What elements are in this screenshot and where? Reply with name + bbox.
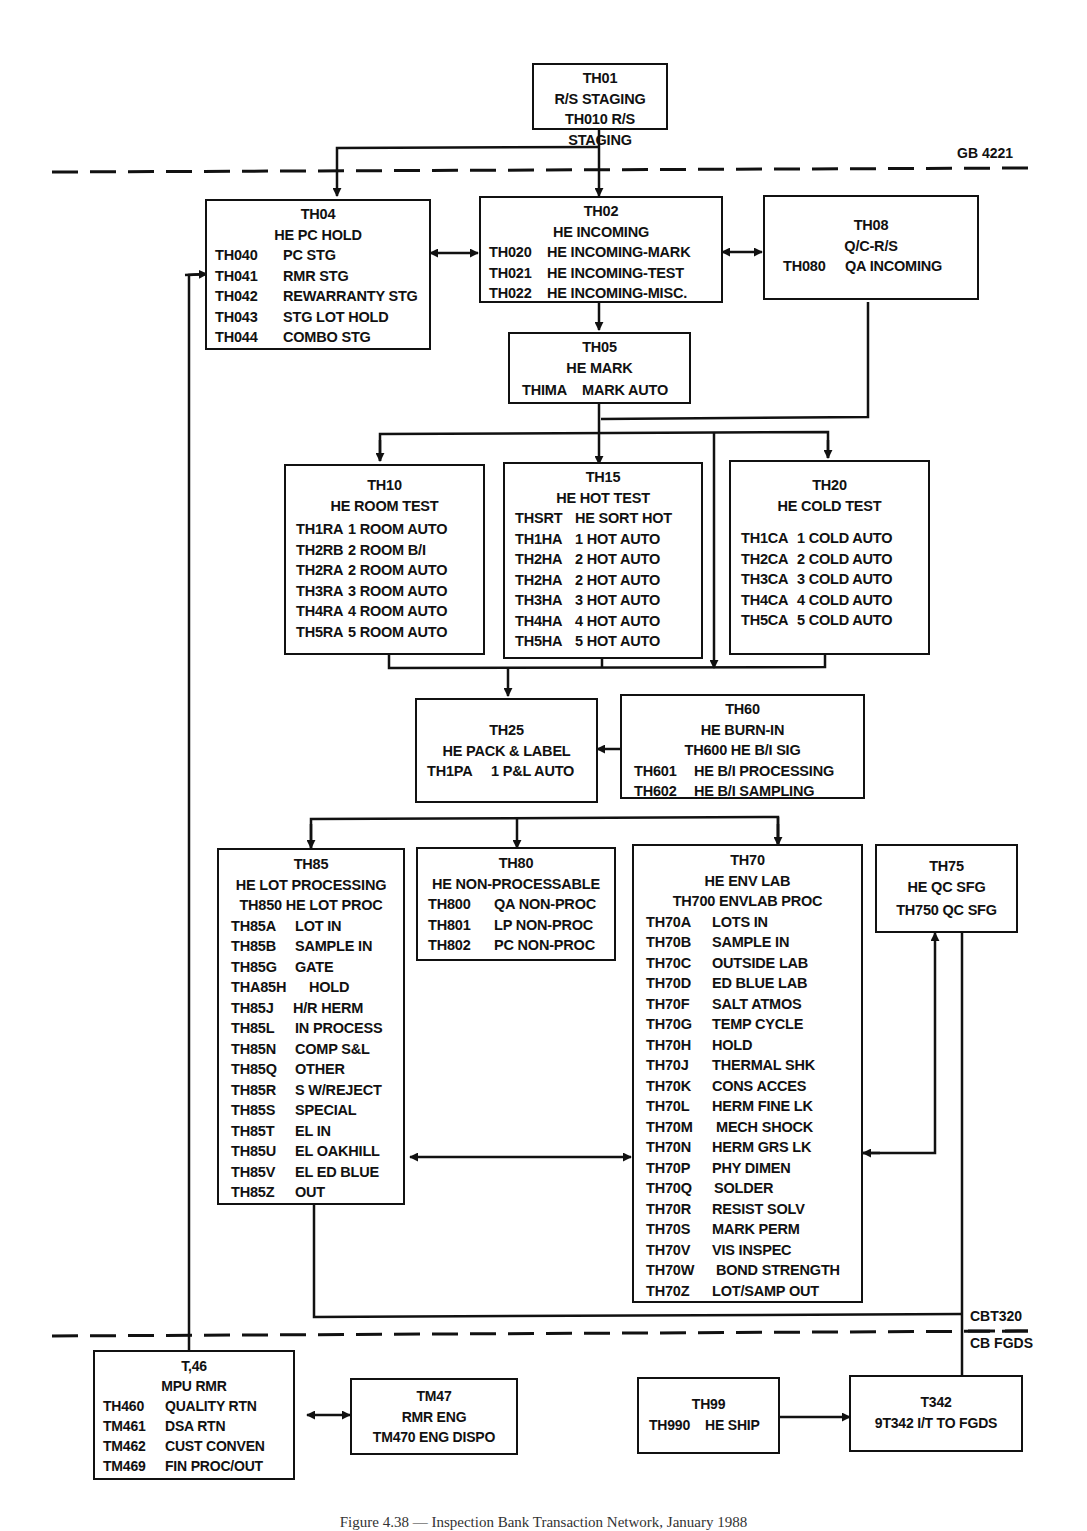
node-id: TH99 bbox=[639, 1394, 778, 1415]
list-item: TH70JTHERMAL SHK bbox=[646, 1055, 861, 1076]
list-item: TM462CUST CONVEN bbox=[103, 1436, 293, 1456]
list-item: TH70QSOLDER bbox=[646, 1178, 861, 1199]
list-item: TH020HE INCOMING-MARK bbox=[489, 242, 721, 263]
list-item: TH70GTEMP CYCLE bbox=[646, 1014, 861, 1035]
list-item: TH800QA NON-PROC bbox=[428, 894, 614, 915]
node-id: TH15 bbox=[505, 467, 701, 488]
list-item: TH70COUTSIDE LAB bbox=[646, 953, 861, 974]
node-th99: TH99 TH990HE SHIP bbox=[637, 1377, 780, 1454]
node-id: TH01 bbox=[534, 68, 666, 89]
list-item: TH85ZOUT bbox=[231, 1182, 403, 1203]
node-title: HE PC HOLD bbox=[207, 225, 429, 246]
list-item: TH2RA2 ROOM AUTO bbox=[296, 560, 483, 581]
node-th85: TH85 HE LOT PROCESSING TH850 HE LOT PROC… bbox=[217, 848, 405, 1205]
list-item: TH4RA4 ROOM AUTO bbox=[296, 601, 483, 622]
list-item: TM469FIN PROC/OUT bbox=[103, 1456, 293, 1476]
node-sub: TH600 HE B/I SIG bbox=[622, 740, 863, 761]
list-item: THSRTHE SORT HOT bbox=[515, 508, 701, 529]
list-item: TH85BSAMPLE IN bbox=[231, 936, 403, 957]
list-item: TH70KCONS ACCES bbox=[646, 1076, 861, 1097]
figure-caption: Figure 4.38 — Inspection Bank Transactio… bbox=[0, 1514, 1087, 1531]
list-item: TH4HA4 HOT AUTO bbox=[515, 611, 701, 632]
node-id: TH75 bbox=[877, 856, 1016, 877]
list-item: TM461DSA RTN bbox=[103, 1416, 293, 1436]
node-title: HE PACK & LABEL bbox=[417, 741, 596, 762]
node-id: TH60 bbox=[622, 699, 863, 720]
node-id: TH80 bbox=[418, 853, 614, 874]
list-item: TH70HHOLD bbox=[646, 1035, 861, 1056]
list-item: TH2HA2 HOT AUTO bbox=[515, 549, 701, 570]
node-th80: TH80 HE NON-PROCESSABLE TH800QA NON-PROC… bbox=[416, 847, 616, 961]
node-id: T342 bbox=[851, 1392, 1021, 1413]
node-title: HE INCOMING bbox=[481, 222, 721, 243]
list-item: TH70DED BLUE LAB bbox=[646, 973, 861, 994]
node-id: T,46 bbox=[95, 1356, 293, 1376]
list-item: TH043STG LOT HOLD bbox=[215, 307, 429, 328]
list-item: TH70VVIS INSPEC bbox=[646, 1240, 861, 1261]
node-sub: TH850 HE LOT PROC bbox=[219, 895, 403, 916]
node-id: TH85 bbox=[219, 854, 403, 875]
node-title: HE BURN-IN bbox=[622, 720, 863, 741]
list-item: TH602HE B/I SAMPLING bbox=[634, 781, 863, 802]
boundary-label-cbt320: CBT320 bbox=[970, 1308, 1022, 1324]
list-item: TH041RMR STG bbox=[215, 266, 429, 287]
list-item: TH85LIN PROCESS bbox=[231, 1018, 403, 1039]
node-id: TH70 bbox=[634, 850, 861, 871]
list-item: TH1CA1 COLD AUTO bbox=[741, 528, 928, 549]
node-id: TH02 bbox=[481, 201, 721, 222]
list-item: TH85RS W/REJECT bbox=[231, 1080, 403, 1101]
list-item: THA85HHOLD bbox=[231, 977, 403, 998]
node-title: HE MARK bbox=[510, 358, 689, 379]
list-item: TH70ALOTS IN bbox=[646, 912, 861, 933]
list-item: TH460QUALITY RTN bbox=[103, 1396, 293, 1416]
boundary-label-gb4221: GB 4221 bbox=[957, 145, 1013, 161]
node-id: TH25 bbox=[417, 720, 596, 741]
list-item: TH85ALOT IN bbox=[231, 916, 403, 937]
node-th70: TH70 HE ENV LAB TH700 ENVLAB PROC TH70AL… bbox=[632, 844, 863, 1303]
node-id: TH05 bbox=[510, 337, 689, 358]
list-item: TH2RB2 ROOM B/I bbox=[296, 540, 483, 561]
node-th20: TH20 HE COLD TEST TH1CA1 COLD AUTO TH2CA… bbox=[729, 460, 930, 655]
list-item: TH85SSPECIAL bbox=[231, 1100, 403, 1121]
list-item: TH021HE INCOMING-TEST bbox=[489, 263, 721, 284]
node-title: 9T342 I/T TO FGDS bbox=[851, 1413, 1021, 1434]
list-item: TH5CA5 COLD AUTO bbox=[741, 610, 928, 631]
list-item: TH5RA5 ROOM AUTO bbox=[296, 622, 483, 643]
node-title: HE LOT PROCESSING bbox=[219, 875, 403, 896]
node-id: TH08 bbox=[765, 215, 977, 236]
list-item: TH801LP NON-PROC bbox=[428, 915, 614, 936]
node-title: HE ENV LAB bbox=[634, 871, 861, 892]
node-sub: TH750 QC SFG bbox=[877, 900, 1016, 921]
list-item: TH70PPHY DIMEN bbox=[646, 1158, 861, 1179]
node-id: TH10 bbox=[286, 475, 483, 496]
list-item: TH4CA4 COLD AUTO bbox=[741, 590, 928, 611]
list-item: TH70BSAMPLE IN bbox=[646, 932, 861, 953]
node-th01: TH01 R/S STAGING TH010 R/S STAGING bbox=[532, 63, 668, 130]
list-item: TH3HA3 HOT AUTO bbox=[515, 590, 701, 611]
list-item: TH2HA2 HOT AUTO bbox=[515, 570, 701, 591]
list-item: TH70FSALT ATMOS bbox=[646, 994, 861, 1015]
list-item: TH85GGATE bbox=[231, 957, 403, 978]
list-item: TH70ZLOT/SAMP OUT bbox=[646, 1281, 861, 1302]
node-title: Q/C-R/S bbox=[765, 236, 977, 257]
node-th08: TH08 Q/C-R/S TH080QA INCOMING bbox=[763, 195, 979, 300]
node-th25: TH25 HE PACK & LABEL TH1PA1 P&L AUTO bbox=[415, 698, 598, 803]
node-id: TH04 bbox=[207, 204, 429, 225]
node-title: RMR ENG bbox=[352, 1407, 516, 1428]
list-item: TH022HE INCOMING-MISC. bbox=[489, 283, 721, 304]
node-id: TH20 bbox=[731, 475, 928, 496]
node-t342: T342 9T342 I/T TO FGDS bbox=[849, 1375, 1023, 1452]
node-title: R/S STAGING bbox=[534, 89, 666, 110]
node-sub: TH010 R/S STAGING bbox=[534, 109, 666, 150]
list-item: TH70NHERM GRS LK bbox=[646, 1137, 861, 1158]
node-title: HE NON-PROCESSABLE bbox=[418, 874, 614, 895]
list-item: TH044COMBO STG bbox=[215, 327, 429, 348]
list-item: TH601HE B/I PROCESSING bbox=[634, 761, 863, 782]
node-th10: TH10 HE ROOM TEST TH1RA1 ROOM AUTO TH2RB… bbox=[284, 464, 485, 655]
node-t46: T,46 MPU RMR TH460QUALITY RTN TM461DSA R… bbox=[93, 1350, 295, 1480]
node-sub: TH700 ENVLAB PROC bbox=[634, 891, 861, 912]
node-title: HE HOT TEST bbox=[505, 488, 701, 509]
node-th60: TH60 HE BURN-IN TH600 HE B/I SIG TH601HE… bbox=[620, 694, 865, 799]
list-item: THIMAMARK AUTO bbox=[522, 380, 689, 401]
node-sub: TM470 ENG DISPO bbox=[352, 1427, 516, 1448]
